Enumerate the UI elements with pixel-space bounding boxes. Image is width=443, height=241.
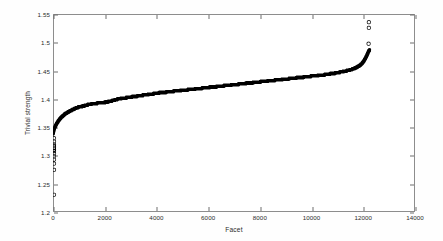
y-tick-label: 1.45 <box>38 67 50 74</box>
y-tick-label: 1.4 <box>41 95 50 102</box>
y-axis-label-text: Trivial strength <box>24 75 31 151</box>
x-tick-label: 14000 <box>406 214 424 221</box>
x-tick-mark <box>209 207 210 211</box>
x-tick-label: 0 <box>51 214 55 221</box>
x-tick-mark <box>54 15 55 19</box>
x-tick-mark <box>157 207 158 211</box>
y-axis-label: Trivial strength <box>13 14 27 212</box>
y-tick-mark <box>54 128 58 129</box>
x-tick-label: 12000 <box>354 214 372 221</box>
y-tick-mark <box>410 128 414 129</box>
x-tick-mark <box>312 207 313 211</box>
x-tick-mark <box>105 207 106 211</box>
y-tick-mark <box>410 43 414 44</box>
x-axis-label-text: Facet <box>53 226 415 233</box>
y-tick-label: 1.55 <box>38 11 50 18</box>
x-tick-label: 4000 <box>149 214 163 221</box>
y-tick-mark <box>410 99 414 100</box>
x-tick-mark <box>105 15 106 19</box>
x-tick-mark <box>364 207 365 211</box>
x-tick-label: 8000 <box>253 214 267 221</box>
x-tick-mark <box>209 15 210 19</box>
x-tick-mark <box>157 15 158 19</box>
y-tick-label: 1.35 <box>38 124 50 131</box>
x-tick-label: 2000 <box>98 214 112 221</box>
plot-frame <box>53 14 415 212</box>
figure: 1.21.251.31.351.41.451.51.55 02000400060… <box>0 0 443 241</box>
x-axis-tick-labels: 02000400060008000100001200014000 <box>53 214 415 226</box>
y-tick-mark <box>410 156 414 157</box>
y-tick-mark <box>54 156 58 157</box>
x-tick-label: 10000 <box>303 214 321 221</box>
y-tick-mark <box>410 184 414 185</box>
x-tick-mark <box>364 15 365 19</box>
x-tick-mark <box>260 207 261 211</box>
y-tick-label: 1.25 <box>38 180 50 187</box>
x-tick-mark <box>416 207 417 211</box>
y-tick-mark <box>54 15 58 16</box>
x-tick-mark <box>260 15 261 19</box>
x-tick-label: 6000 <box>201 214 215 221</box>
y-tick-mark <box>54 99 58 100</box>
y-tick-mark <box>54 43 58 44</box>
x-tick-mark <box>416 15 417 19</box>
y-tick-label: 1.2 <box>41 209 50 216</box>
x-tick-mark <box>312 15 313 19</box>
x-tick-mark <box>54 207 55 211</box>
y-tick-mark <box>54 71 58 72</box>
y-tick-mark <box>410 15 414 16</box>
y-tick-label: 1.3 <box>41 152 50 159</box>
y-tick-mark <box>410 71 414 72</box>
y-tick-mark <box>54 184 58 185</box>
y-tick-label: 1.5 <box>41 39 50 46</box>
